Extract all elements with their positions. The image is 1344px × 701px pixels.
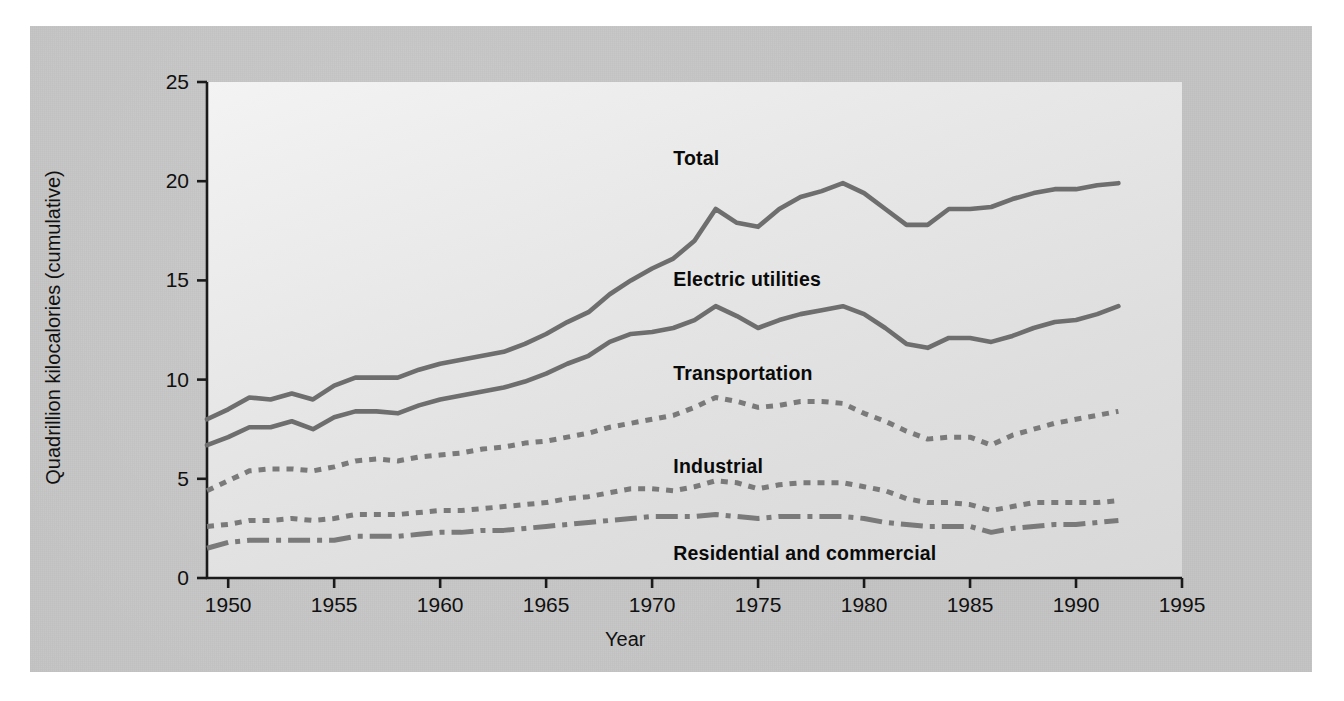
y-tick-label: 20: [125, 170, 189, 191]
series-line-residential-and-commercial: [207, 515, 1118, 549]
x-tick-label: 1960: [395, 594, 485, 615]
series-label-industrial: Industrial: [673, 455, 763, 478]
series-label-electric-utilities: Electric utilities: [673, 268, 821, 291]
series-label-transportation: Transportation: [673, 362, 812, 385]
x-tick-label: 1950: [183, 594, 273, 615]
x-tick-label: 1955: [289, 594, 379, 615]
series-line-industrial: [207, 481, 1118, 527]
x-tick-label: 1985: [925, 594, 1015, 615]
x-tick-label: 1995: [1137, 594, 1227, 615]
x-axis-label: Year: [605, 628, 645, 651]
x-tick-label: 1965: [501, 594, 591, 615]
x-tick-label: 1970: [607, 594, 697, 615]
figure-root: 0510152025195019551960196519701975198019…: [0, 0, 1344, 701]
y-tick-label: 25: [125, 71, 189, 92]
y-tick-label: 5: [125, 468, 189, 489]
series-line-electric-utilities: [207, 306, 1118, 445]
x-tick-label: 1990: [1031, 594, 1121, 615]
y-tick-label: 0: [125, 567, 189, 588]
y-axis-label: Quadrillion kilocalories (cumulative): [42, 163, 65, 493]
series-label-total: Total: [673, 147, 719, 170]
x-tick-label: 1980: [819, 594, 909, 615]
x-tick-label: 1975: [713, 594, 803, 615]
y-tick-label: 15: [125, 269, 189, 290]
series-line-total: [207, 183, 1118, 419]
y-tick-label: 10: [125, 369, 189, 390]
series-label-residential-and-commercial: Residential and commercial: [673, 542, 936, 565]
series-line-transportation: [207, 397, 1118, 490]
